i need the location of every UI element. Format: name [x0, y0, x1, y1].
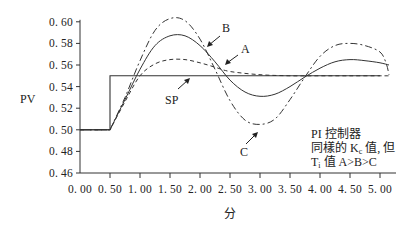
pv-response-chart: 0. 600. 580. 560. 540. 520. 500. 480. 46… — [0, 0, 418, 232]
y-tick-label: 0. 60 — [49, 16, 73, 28]
x-axis-label: 分 — [224, 207, 236, 221]
series-b-line — [80, 35, 389, 130]
series-lines — [80, 18, 389, 130]
x-tick-label: 0. 00 — [68, 183, 92, 195]
series-c-line — [80, 18, 389, 130]
x-tick-label: 2. 50 — [218, 183, 242, 195]
note-line-2: 同樣的 Kc 值, 但 — [311, 140, 395, 156]
label-a: A — [225, 42, 250, 65]
label-c-text: C — [240, 145, 248, 159]
y-tick-label: 0. 52 — [49, 102, 73, 114]
series-a-line — [80, 59, 389, 130]
y-tick-label: 0. 56 — [49, 59, 73, 71]
note-line-3: Ti 值 A>B>C — [311, 154, 377, 170]
y-tick-label: 0. 58 — [49, 37, 73, 49]
x-tick-label: 4. 00 — [308, 183, 332, 195]
label-b-text: B — [222, 21, 230, 35]
series-sp-line — [80, 76, 380, 130]
arrowhead-a-icon — [225, 59, 231, 65]
label-c: C — [240, 132, 258, 159]
label-a-text: A — [241, 42, 250, 56]
x-tick-label: 4. 50 — [338, 183, 362, 195]
label-sp-text: SP — [165, 93, 179, 107]
y-tick-label: 0. 54 — [49, 81, 73, 93]
controller-note: PI 控制器 同樣的 Kc 值, 但 Ti 值 A>B>C — [311, 127, 395, 170]
y-tick-label: 0. 48 — [49, 145, 73, 157]
y-tick-label: 0. 50 — [49, 124, 73, 136]
x-tick-label: 1. 50 — [158, 183, 182, 195]
x-tick-label: 3. 50 — [278, 183, 302, 195]
x-tick-label: 5. 00 — [368, 183, 392, 195]
x-tick-label: 1. 00 — [128, 183, 152, 195]
label-b: B — [207, 21, 230, 47]
note-line-1: PI 控制器 — [311, 127, 361, 141]
x-tick-label: 2. 00 — [188, 183, 212, 195]
x-tick-label: 0. 50 — [98, 183, 122, 195]
y-axis-label: PV — [20, 92, 36, 106]
x-tick-label: 3. 00 — [248, 183, 272, 195]
label-sp: SP — [165, 78, 190, 107]
y-tick-label: 0. 46 — [49, 167, 73, 179]
